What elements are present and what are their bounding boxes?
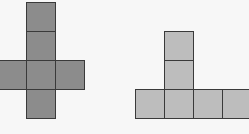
cross-net-square [26,2,56,32]
t-net-square [135,89,165,119]
cross-net-square [55,60,85,90]
t-net-square [164,31,194,61]
t-net-square [193,89,223,119]
cross-net-square [26,89,56,119]
cross-net-square [0,60,27,90]
t-net-square [164,60,194,90]
cross-net-square [26,60,56,90]
cross-net-square [26,31,56,61]
t-net-square [164,89,194,119]
t-net-square [222,89,249,119]
